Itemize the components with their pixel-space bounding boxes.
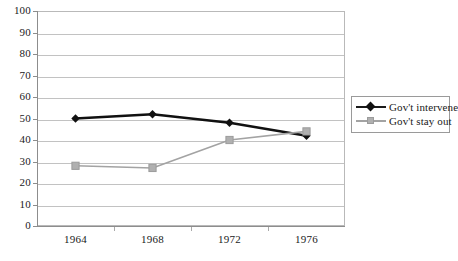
legend-marker-diamond-icon: [356, 101, 386, 113]
gridline: [38, 120, 344, 121]
y-tick-mark: [33, 54, 37, 55]
legend-marker-square-icon: [356, 115, 386, 127]
y-tick-label: 10: [5, 199, 31, 210]
x-tick-mark: [114, 227, 115, 231]
y-tick-mark: [33, 140, 37, 141]
y-tick-mark: [33, 119, 37, 120]
gridline: [38, 98, 344, 99]
gridline: [38, 55, 344, 56]
y-tick-mark: [33, 97, 37, 98]
y-tick-label: 90: [5, 27, 31, 38]
legend: Gov't intervene Gov't stay out: [351, 96, 450, 133]
gridline: [38, 77, 344, 78]
gridline: [38, 163, 344, 164]
y-tick-mark: [33, 76, 37, 77]
legend-label-0: Gov't intervene: [389, 101, 458, 113]
x-tick-mark: [191, 227, 192, 231]
y-tick-label: 60: [5, 91, 31, 102]
y-tick-label: 100: [5, 5, 31, 16]
y-tick-mark: [33, 162, 37, 163]
x-tick-label: 1976: [277, 233, 337, 246]
y-tick-label: 20: [5, 177, 31, 188]
legend-label-1: Gov't stay out: [389, 115, 452, 127]
y-tick-label: 80: [5, 48, 31, 59]
legend-item-0[interactable]: Gov't intervene: [356, 100, 445, 114]
y-tick-label: 70: [5, 70, 31, 81]
x-tick-label: 1964: [46, 233, 106, 246]
x-tick-label: 1968: [123, 233, 183, 246]
plot-area: [37, 11, 345, 226]
gridline: [38, 141, 344, 142]
legend-item-1[interactable]: Gov't stay out: [356, 114, 445, 128]
gridline: [38, 184, 344, 185]
gridline: [38, 206, 344, 207]
y-axis-line: [37, 11, 38, 226]
y-tick-label: 30: [5, 156, 31, 167]
y-tick-mark: [33, 183, 37, 184]
y-axis-labels: 1009080706050403020100: [0, 0, 31, 261]
y-tick-mark: [33, 205, 37, 206]
y-tick-label: 40: [5, 134, 31, 145]
y-tick-mark: [33, 33, 37, 34]
y-tick-mark: [33, 11, 37, 12]
gridline: [38, 34, 344, 35]
y-tick-label: 0: [5, 220, 31, 231]
x-tick-mark: [268, 227, 269, 231]
y-tick-label: 50: [5, 113, 31, 124]
x-tick-label: 1972: [200, 233, 260, 246]
